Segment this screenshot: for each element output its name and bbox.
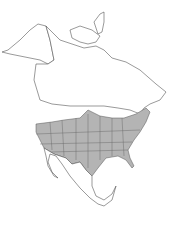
canada — [34, 26, 166, 114]
range-area-usa — [36, 108, 150, 176]
alaska — [2, 24, 54, 64]
arctic-islands — [70, 26, 100, 44]
greenland — [94, 12, 104, 34]
range-map — [0, 0, 181, 226]
